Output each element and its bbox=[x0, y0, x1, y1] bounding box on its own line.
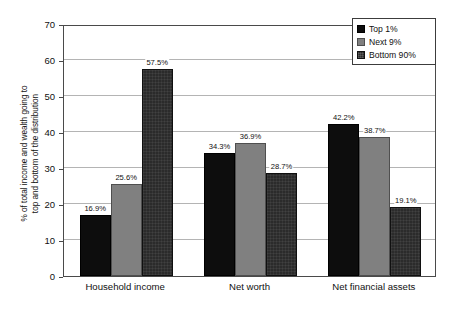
y-axis-tick-label: 70 bbox=[44, 19, 55, 30]
bar-rect bbox=[142, 69, 173, 276]
x-axis-tick-label: Net financial assets bbox=[312, 281, 436, 292]
legend-item[interactable]: Top 1% bbox=[357, 22, 431, 35]
bar-rect bbox=[204, 153, 235, 276]
bar[interactable]: 36.9% bbox=[235, 24, 266, 276]
bar-value-label: 16.9% bbox=[83, 204, 107, 213]
y-axis: 010203040506070 bbox=[0, 0, 63, 310]
bar-value-label: 57.5% bbox=[145, 58, 169, 67]
bar[interactable]: 57.5% bbox=[142, 24, 173, 276]
bar[interactable]: 34.3% bbox=[204, 24, 235, 276]
bar-rect bbox=[390, 207, 421, 276]
bar-rect bbox=[266, 173, 297, 276]
bar-value-label: 19.1% bbox=[394, 196, 418, 205]
bar[interactable]: 28.7% bbox=[266, 24, 297, 276]
legend-item-label: Next 9% bbox=[369, 37, 401, 47]
bar-value-label: 28.7% bbox=[270, 162, 294, 171]
legend: Top 1% Next 9% Bottom 90% bbox=[352, 18, 436, 65]
x-axis-tick-label: Net worth bbox=[187, 281, 311, 292]
bar-value-label: 36.9% bbox=[239, 132, 263, 141]
y-axis-tick-label: 10 bbox=[44, 235, 55, 246]
bar-rect bbox=[359, 137, 390, 276]
bar[interactable]: 25.6% bbox=[111, 24, 142, 276]
legend-item[interactable]: Next 9% bbox=[357, 35, 431, 48]
bar-group: 34.3%36.9%28.7% bbox=[188, 26, 312, 276]
bar-group: 16.9%25.6%57.5% bbox=[64, 26, 188, 276]
bar-chart: % of total income and wealth going to to… bbox=[0, 0, 451, 310]
y-axis-tick-label: 20 bbox=[44, 199, 55, 210]
bar-value-label: 34.3% bbox=[208, 142, 232, 151]
legend-item-label: Top 1% bbox=[369, 24, 398, 34]
bar-value-label: 42.2% bbox=[332, 113, 356, 122]
bar-rect bbox=[328, 124, 359, 276]
x-axis: Household incomeNet worthNet financial a… bbox=[63, 281, 436, 303]
bar-rect bbox=[111, 184, 142, 276]
legend-item-label: Bottom 90% bbox=[369, 50, 416, 60]
bar-rect bbox=[80, 215, 111, 276]
y-axis-tick-label: 0 bbox=[50, 271, 55, 282]
y-axis-tick-label: 60 bbox=[44, 55, 55, 66]
bar-value-label: 25.6% bbox=[114, 173, 138, 182]
bar[interactable]: 16.9% bbox=[80, 24, 111, 276]
legend-item[interactable]: Bottom 90% bbox=[357, 48, 431, 61]
bar-value-label: 38.7% bbox=[363, 126, 387, 135]
x-axis-tick-label: Household income bbox=[63, 281, 187, 292]
y-axis-tick-label: 40 bbox=[44, 127, 55, 138]
legend-swatch-icon bbox=[357, 51, 365, 59]
y-axis-tick-label: 30 bbox=[44, 163, 55, 174]
legend-swatch-icon bbox=[357, 25, 365, 33]
y-axis-tick-mark bbox=[59, 277, 63, 278]
bar-rect bbox=[235, 143, 266, 276]
y-axis-tick-label: 50 bbox=[44, 91, 55, 102]
legend-swatch-icon bbox=[357, 38, 365, 46]
